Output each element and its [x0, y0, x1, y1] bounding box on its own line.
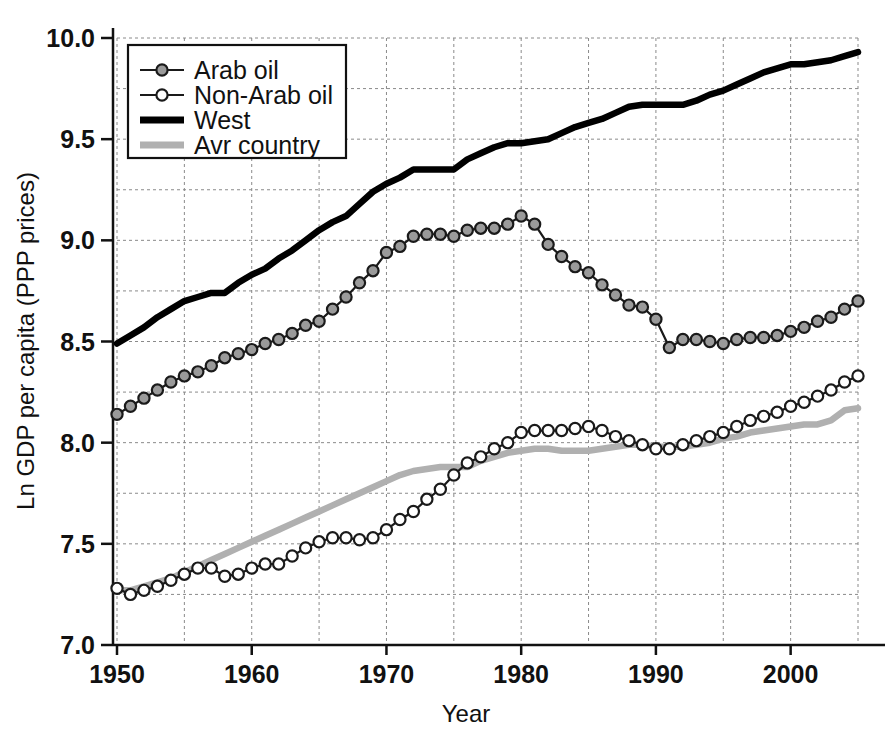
y-tick-label: 9.5 — [60, 125, 95, 153]
x-tick-label: 2000 — [763, 660, 819, 688]
x-tick-label: 1960 — [224, 660, 280, 688]
y-tick-label: 7.5 — [60, 530, 95, 558]
y-tick-label: 10.0 — [46, 24, 95, 52]
x-tick-label: 1980 — [493, 660, 549, 688]
y-tick-label: 8.0 — [60, 429, 95, 457]
x-axis-label: Year — [442, 700, 491, 727]
y-tick-label: 9.0 — [60, 226, 95, 254]
chart-figure: 7.07.58.08.59.09.510.0195019601970198019… — [0, 0, 892, 748]
x-tick-label: 1990 — [628, 660, 684, 688]
y-axis-label: Ln GDP per capita (PPP prices) — [12, 172, 39, 510]
chart-legend: Arab oilNon-Arab oilWestAvr country — [128, 45, 346, 159]
line-chart: 7.07.58.08.59.09.510.0195019601970198019… — [0, 0, 892, 748]
x-tick-label: 1970 — [359, 660, 415, 688]
y-tick-label: 7.0 — [60, 631, 95, 659]
legend-label: West — [194, 106, 251, 134]
open-circle-icon — [156, 89, 167, 100]
x-tick-label: 1950 — [89, 660, 145, 688]
y-tick-label: 8.5 — [60, 328, 95, 356]
filled-circle-icon — [156, 64, 167, 75]
legend-label: Arab oil — [194, 56, 279, 84]
legend-label: Non-Arab oil — [194, 81, 333, 109]
legend-label: Avr country — [194, 131, 320, 159]
